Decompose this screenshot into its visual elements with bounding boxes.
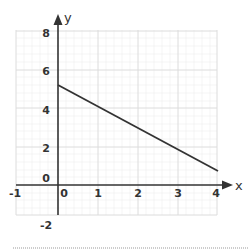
x-axis-arrow-icon: [222, 181, 233, 190]
y-axis-arrow-icon: [54, 14, 63, 25]
y-tick-4: 4: [42, 104, 50, 117]
x-axis-label: x: [235, 178, 243, 193]
minor-grid: [16, 30, 217, 215]
y-axis-label: y: [64, 10, 72, 25]
x-tick-3: 3: [174, 187, 182, 200]
y-tick-0: 0: [42, 172, 50, 185]
x-tick-4: 4: [212, 187, 220, 200]
x-tick-0: 0: [60, 187, 68, 200]
x-tick-m1: -1: [9, 187, 21, 200]
y-tick-m2: -2: [40, 219, 52, 232]
y-tick-2: 2: [42, 142, 50, 155]
chart-canvas: y x 8 6 4 2 0 -2 -1 0 1 2 3 4: [0, 0, 249, 251]
x-tick-2: 2: [134, 187, 142, 200]
x-tick-1: 1: [94, 187, 102, 200]
major-grid: [16, 30, 217, 215]
y-tick-8: 8: [42, 27, 50, 40]
y-tick-6: 6: [42, 65, 50, 78]
